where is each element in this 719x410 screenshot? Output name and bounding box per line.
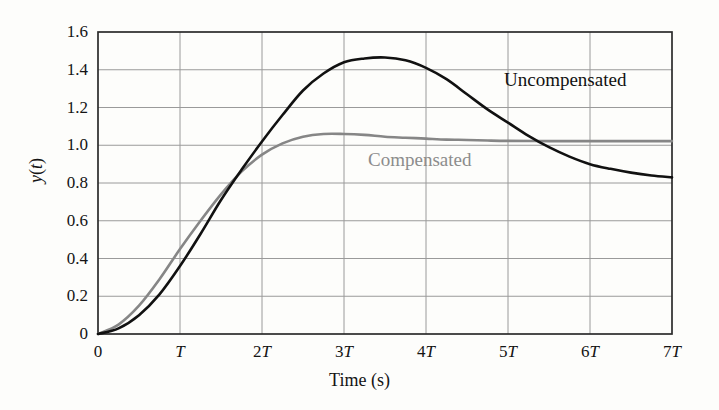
x-tick-label: 2T [237,343,287,360]
x-tick-label: 5T [483,343,533,360]
x-tick-label: 4T [401,343,451,360]
series-label-compensated: Compensated [368,150,471,169]
x-axis-title: Time (s) [0,370,719,391]
x-tick-label: 3T [319,343,369,360]
y-axis-title: y(t) [26,141,47,201]
x-tick-label: 7T [647,343,697,360]
x-tick-label: T [155,343,205,360]
chart-figure: 00.20.40.60.81.01.21.41.60T2T3T4T5T6T7T [0,0,719,410]
y-tick-label: 1.4 [28,61,88,78]
y-tick-label: 1.2 [28,99,88,116]
y-tick-label: 0.2 [28,287,88,304]
series-line-uncompensated [98,57,672,334]
y-tick-label: 0 [28,325,88,342]
x-tick-label: 0 [73,343,123,360]
x-tick-label: 6T [565,343,615,360]
y-tick-label: 0.4 [28,250,88,267]
y-tick-label: 0.6 [28,212,88,229]
y-tick-label: 1.6 [28,23,88,40]
series-label-uncompensated: Uncompensated [504,70,626,89]
